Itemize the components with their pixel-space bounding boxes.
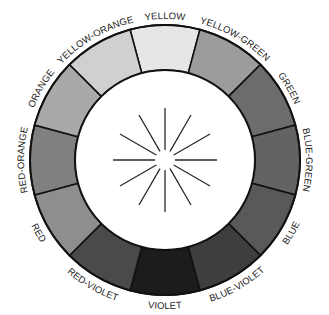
color-wheel-diagram: YELLOWYELLOW-GREENGREENBLUE-GREENBLUEBLU… [0, 0, 329, 315]
inner-white-disc [75, 70, 255, 250]
label-violet: VIOLET [148, 299, 183, 311]
label-red-orange: RED-ORANGE [15, 126, 30, 195]
label-yellow: YELLOW [144, 10, 186, 22]
label-blue-green: BLUE-GREEN [301, 127, 315, 193]
